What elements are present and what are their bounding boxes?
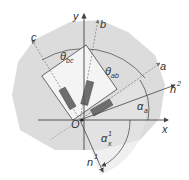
n1-superscript: 1 — [94, 153, 98, 160]
theta-ab-subscript: ab — [111, 72, 119, 79]
n2-label: n — [170, 83, 176, 95]
y-axis-label: y — [72, 10, 80, 22]
a-axis-label: a — [160, 60, 166, 72]
origin-label: O — [71, 118, 80, 130]
theta-bc-subscript: bc — [66, 57, 74, 64]
x-axis-label: x — [161, 123, 168, 135]
b-axis-label: b — [100, 18, 106, 30]
alpha-x1-subscript: x — [107, 140, 112, 147]
n1-label: n — [87, 156, 93, 168]
alpha-a-subscript: a — [144, 107, 148, 114]
alpha-x1-symbol: α — [101, 132, 108, 144]
alpha-a-symbol: α — [137, 100, 144, 112]
n2-superscript: 2 — [176, 80, 181, 87]
origin-point — [80, 118, 83, 121]
alpha-x1-superscript: 1 — [108, 130, 112, 137]
c-axis-label: c — [31, 31, 37, 43]
strain-rosette-diagram: y x O a b c n 2 n 1 θ bc θ ab α a α x 1 — [0, 0, 189, 180]
diagram-canvas: y x O a b c n 2 n 1 θ bc θ ab α a α x 1 — [0, 0, 189, 180]
